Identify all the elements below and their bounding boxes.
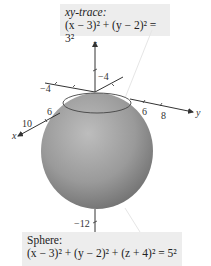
sphere-equation: (x − 3)² + (y − 2)² + (z + 4)² = 5² xyxy=(27,247,177,260)
z-tick-neg4: −4 xyxy=(98,71,109,82)
sphere-title: Sphere: xyxy=(27,234,177,247)
y-tick-8: 8 xyxy=(161,110,166,121)
x-tick-6: 6 xyxy=(47,106,52,117)
sphere-label: Sphere: (x − 3)² + (y − 2)² + (z + 4)² =… xyxy=(22,232,182,266)
z-axis-label: z xyxy=(92,38,97,49)
sphere xyxy=(41,93,153,209)
z-tick-neg12: −12 xyxy=(74,218,90,229)
x-axis-label: x xyxy=(11,130,17,141)
y-tick-neg4: −4 xyxy=(40,83,51,94)
y-tick-6: 6 xyxy=(142,106,147,117)
z-axis-lower: −12 xyxy=(74,209,97,232)
x-tick-10: 10 xyxy=(22,118,32,129)
z-axis: z −4 xyxy=(92,38,109,92)
y-axis-label: y xyxy=(195,107,201,118)
